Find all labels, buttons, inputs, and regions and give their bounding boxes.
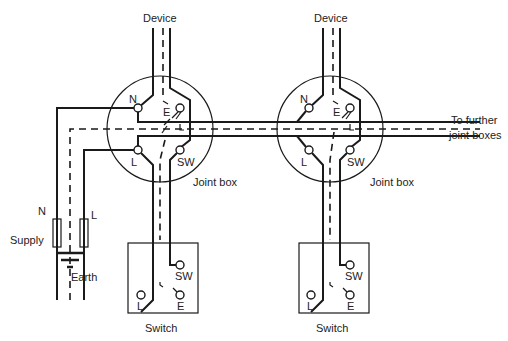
jb2-sw-label: SW (347, 156, 365, 168)
jb2-e-label: E (333, 106, 340, 118)
sw2-sw-label: SW (345, 270, 363, 282)
joint-box-2 (277, 28, 383, 312)
earth-label: Earth (71, 271, 97, 283)
jb1-sw-label: SW (177, 156, 195, 168)
sw2-e-label: E (347, 300, 354, 312)
joint-box-1 (57, 28, 480, 312)
jb1-l-label: L (131, 156, 137, 168)
sw1-sw-label: SW (175, 270, 193, 282)
jb2-l-label: L (301, 156, 307, 168)
jb2-n-label: N (300, 93, 308, 105)
joint-box-2-label: Joint box (370, 176, 415, 188)
jb1-e-label: E (163, 106, 170, 118)
supply-label: Supply (10, 234, 44, 246)
supply-l-label: L (91, 209, 97, 221)
wiring-diagram: N E L SW Device Joint box SW L E Switch … (0, 0, 508, 341)
switch-1-label: Switch (145, 322, 177, 334)
wiring-svg: N E L SW Device Joint box SW L E Switch … (0, 0, 508, 341)
further-label-line2: joint boxes (448, 129, 502, 141)
sw1-l-label: L (137, 300, 143, 312)
sw2-l-label: L (307, 300, 313, 312)
device-2-label: Device (314, 12, 348, 24)
supply-n-label: N (38, 205, 46, 217)
switch-2-label: Switch (316, 322, 348, 334)
joint-box-1-label: Joint box (193, 176, 238, 188)
sw1-e-label: E (177, 300, 184, 312)
device-1-label: Device (143, 12, 177, 24)
jb1-n-label: N (129, 93, 137, 105)
further-label-line1: To further (451, 114, 498, 126)
